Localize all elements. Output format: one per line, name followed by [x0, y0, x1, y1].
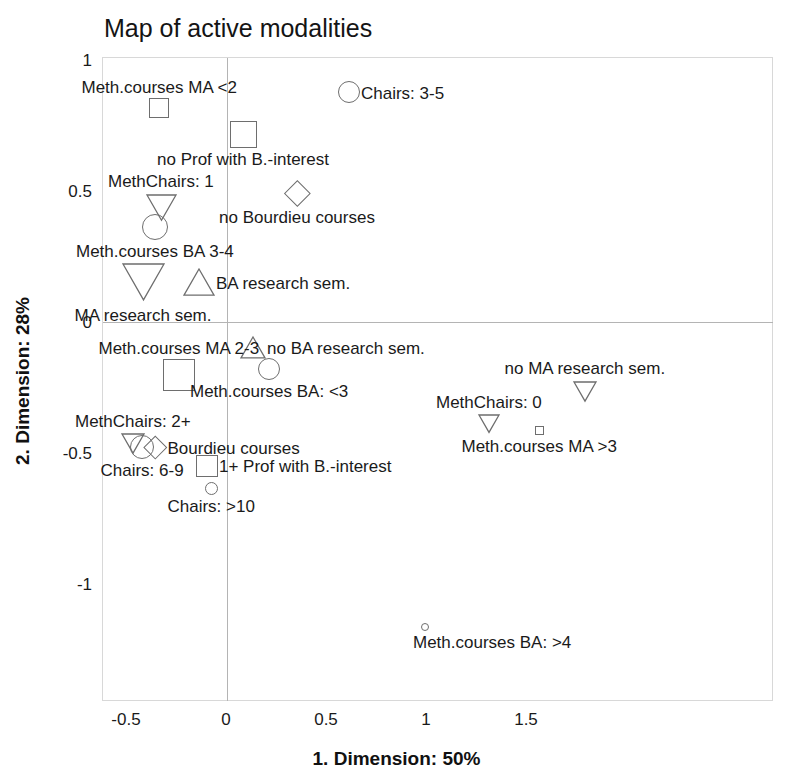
page-title: Map of active modalities	[104, 14, 372, 43]
data-point-label: Chairs: 3-5	[361, 85, 444, 102]
data-point-label: BA research sem.	[216, 275, 350, 292]
y-axis-label: 2. Dimension: 28%	[12, 211, 34, 551]
data-point-marker	[142, 214, 168, 240]
data-point-label: MA research sem.	[75, 307, 212, 324]
data-point-label: Meth.courses MA 2-3	[99, 340, 260, 357]
data-point-label: no BA research sem.	[267, 340, 425, 357]
data-point-marker	[573, 381, 597, 402]
x-tick-label: 1	[421, 711, 430, 728]
data-point-label: Meth.courses BA: <3	[190, 383, 348, 400]
data-point-marker	[535, 426, 544, 435]
x-tick-label: 0	[221, 711, 230, 728]
data-point-label: no Bourdieu courses	[219, 209, 375, 226]
x-tick-label: -0.5	[111, 711, 140, 728]
data-point-label: Meth.courses MA >3	[462, 438, 617, 455]
plot-area: Meth.courses MA <2Chairs: 3-5no Prof wit…	[102, 57, 773, 701]
mca-factor-map-figure: Map of active modalities Meth.courses MA…	[0, 0, 793, 781]
data-point-marker	[338, 81, 360, 103]
data-point-label: MethChairs: 2+	[75, 413, 191, 430]
data-point-marker	[478, 414, 500, 433]
data-point-label: MethChairs: 0	[436, 394, 542, 411]
data-point-label: Meth.courses BA 3-4	[76, 243, 234, 260]
x-axis-label: 1. Dimension: 50%	[0, 748, 793, 770]
data-point-marker	[284, 180, 310, 206]
data-point-label: Meth.courses BA: >4	[413, 634, 571, 651]
x-tick-label: 1.5	[514, 711, 538, 728]
data-point-marker	[205, 482, 218, 495]
data-point-marker	[149, 98, 169, 118]
data-point-label: 1+ Prof with B.-interest	[219, 458, 391, 475]
y-tick-label: 1	[0, 52, 92, 69]
y-tick-label: -1	[0, 576, 92, 593]
data-point-marker	[196, 455, 218, 477]
data-point-label: no MA research sem.	[505, 360, 666, 377]
data-point-marker	[258, 358, 280, 380]
data-point-label: no Prof with B.-interest	[157, 151, 329, 168]
data-point-label: Chairs: 6-9	[101, 462, 184, 479]
data-point-marker	[122, 263, 165, 301]
y-tick-label: 0.5	[0, 183, 92, 200]
data-point-label: Bourdieu courses	[168, 440, 300, 457]
data-point-marker	[230, 121, 257, 148]
data-point-label: Meth.courses MA <2	[82, 79, 237, 96]
x-tick-label: 0.5	[314, 711, 338, 728]
data-point-marker	[421, 623, 429, 631]
data-point-label: MethChairs: 1	[108, 173, 214, 190]
data-point-label: Chairs: >10	[168, 498, 255, 515]
data-point-marker	[183, 268, 215, 296]
